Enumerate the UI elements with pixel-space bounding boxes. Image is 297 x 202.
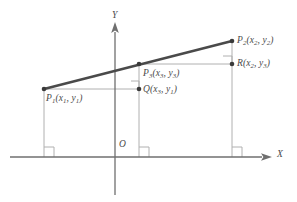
origin-label: O xyxy=(119,140,126,150)
geometry-figure: P1(x1, y1) P2(x2, y2) P3(x3, y3) Q(x3, y… xyxy=(0,0,297,202)
right-angle-mark-foot-p3 xyxy=(139,147,149,157)
point-dot-r xyxy=(230,62,235,67)
y-axis-arrowhead xyxy=(111,22,119,33)
point-label-p3: P3(x3, y3) xyxy=(143,69,180,79)
point-dot-p3 xyxy=(137,62,142,67)
point-dot-p1 xyxy=(42,87,47,92)
y-axis-label: Y xyxy=(112,11,117,21)
x-axis-label: X xyxy=(277,150,283,160)
point-label-p2: P2(x2, y2) xyxy=(237,36,274,46)
point-dot-p2 xyxy=(230,39,235,44)
right-angle-mark-foot-p2 xyxy=(232,147,242,157)
point-label-q: Q(x3, y1) xyxy=(143,85,177,95)
right-angle-mark-foot-p1 xyxy=(44,147,54,157)
point-label-p1: P1(x1, y1) xyxy=(46,94,83,104)
point-label-r: R(x2, y3) xyxy=(237,59,270,69)
point-dot-q xyxy=(137,87,142,92)
figure-canvas xyxy=(0,0,297,202)
x-axis-arrowhead xyxy=(261,153,272,161)
